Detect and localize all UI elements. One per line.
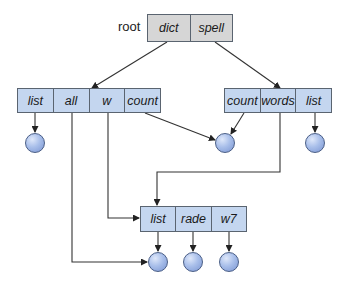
root-node: dict spell [147, 14, 233, 42]
left-cell-w: w [90, 89, 126, 112]
bottom-cell-w7: w7 [212, 207, 246, 231]
right-cell-words: words [261, 89, 297, 112]
root-label: root [118, 19, 140, 34]
edge-left-w [108, 113, 139, 218]
bottom-cell-rade: rade [176, 207, 211, 231]
left-node: list all w count [17, 88, 161, 113]
left-cell-count: count [125, 89, 160, 112]
bottom-cell-list: list [141, 207, 176, 231]
bottom-list-leaf-circle-icon [148, 252, 168, 272]
bottom-node: list rade w7 [140, 206, 247, 232]
edge-left-count [145, 113, 215, 140]
bottom-w7-leaf-circle-icon [219, 252, 239, 272]
right-list-leaf-circle-icon [305, 133, 325, 153]
edge-right-count [231, 113, 244, 134]
edge-left-all [72, 113, 147, 262]
edges-layer [0, 0, 346, 287]
root-cell-spell: spell [191, 15, 233, 41]
left-cell-all: all [54, 89, 90, 112]
left-list-leaf-circle-icon [25, 133, 45, 153]
edge-dict-to-left [92, 42, 167, 88]
bottom-rade-leaf-circle-icon [183, 252, 203, 272]
edge-right-words [157, 113, 280, 205]
right-node: count words list [224, 88, 332, 113]
shared-count-leaf-circle-icon [215, 133, 235, 153]
edge-spell-to-right [215, 42, 280, 88]
right-cell-list: list [296, 89, 331, 112]
root-cell-dict: dict [148, 15, 191, 41]
left-cell-list: list [18, 89, 54, 112]
right-cell-count: count [225, 89, 261, 112]
